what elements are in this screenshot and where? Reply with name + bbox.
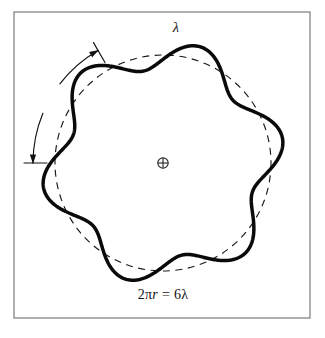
- caption-relation: = 6λ: [158, 287, 188, 302]
- nucleus-marker-group: [158, 158, 168, 168]
- orbit-condition-caption: 2πr = 6λ: [138, 288, 189, 302]
- wavelength-arrow-right: [89, 50, 99, 57]
- wavelength-label: λ: [173, 20, 179, 35]
- caption-prefix: 2π: [138, 287, 153, 302]
- figure-container: λ 2πr = 6λ: [0, 0, 325, 338]
